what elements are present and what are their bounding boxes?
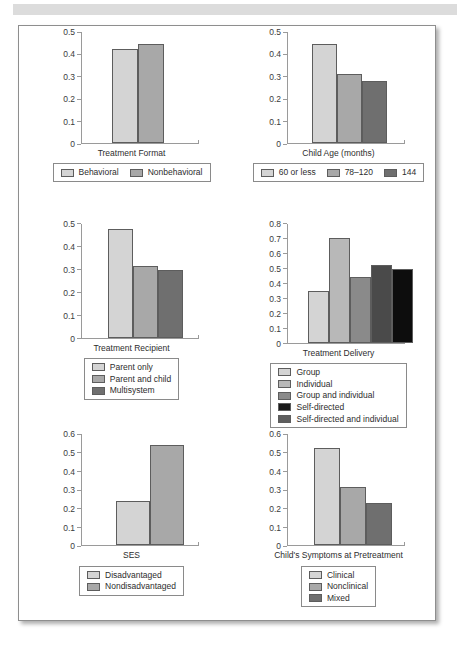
x-axis-line [287,343,405,344]
plot-area-treatment-delivery: 00.10.20.30.40.50.60.70.8 [287,224,405,344]
y-axis-tick-label: 0.2 [63,95,75,104]
legend-swatch-icon [309,571,322,579]
y-axis-tick [77,546,81,547]
plot-wrapper-childs-symptoms-at-pretreatment: 00.10.20.30.40.50.6 [257,434,405,546]
bar-child-age-months-1 [337,74,362,143]
y-axis-tick [77,269,81,270]
y-axis-tick [77,471,81,472]
y-axis-tick-label: 0.5 [63,449,75,458]
y-axis-tick-label: 0.2 [63,505,75,514]
y-axis-tick-label: 0 [70,542,75,551]
y-axis-tick-label: 0.4 [269,467,281,476]
legend-label: Mixed [327,593,350,604]
chart-panel-childs-symptoms-at-pretreatment: 00.10.20.30.40.50.6Child's Symptoms at P… [227,428,435,620]
y-axis-tick [283,253,287,254]
y-axis-tick [283,313,287,314]
y-axis-tick [283,238,287,239]
y-axis-tick-label: 0.4 [269,280,281,289]
legend-swatch-icon [278,403,291,411]
x-axis-label-treatment-delivery: Treatment Delivery [303,349,374,358]
y-axis-tick [77,527,81,528]
y-axis-tick [77,54,81,55]
y-axis-tick-label: 0.6 [269,430,281,439]
y-axis-tick-label: 0.2 [269,310,281,319]
x-axis-line [81,338,199,339]
y-axis-tick-label: 0.6 [63,430,75,439]
y-axis-tick [77,452,81,453]
bar-ses-1 [150,445,184,545]
y-axis-tick [77,315,81,316]
legend-item: Nondisadvantaged [87,581,176,592]
plot-area-ses: 00.10.20.30.40.50.6 [81,434,199,546]
legend-label: 78–120 [345,167,373,178]
legend-swatch-icon [309,594,322,602]
legend-item: Individual [278,379,398,390]
legend-label: Multisystem [110,385,155,396]
y-axis-tick-label: 0.7 [269,235,281,244]
y-axis-tick-label: 0.1 [269,325,281,334]
legend-item: Nonclinical [309,581,368,592]
legend-label: Disadvantaged [105,570,162,581]
legend-swatch-icon [309,583,322,591]
legend-label: Nondisadvantaged [105,581,176,592]
legend-label: Group and individual [296,390,374,401]
y-axis-tick [283,54,287,55]
legend-item: Group and individual [278,390,398,401]
legend-item: Parent only [92,362,171,373]
legend-swatch-icon [61,169,74,177]
bars-container [288,434,405,545]
y-axis-tick [283,452,287,453]
legend-treatment-delivery: GroupIndividualGroup and individualSelf-… [270,363,406,428]
bar-treatment-format-0 [112,49,138,143]
legend-item: Self-directed and individual [278,414,398,425]
legend-swatch-icon [92,387,105,395]
legend-label: 144 [402,167,416,178]
y-axis-tick [283,223,287,224]
bar-treatment-delivery-0 [308,291,329,343]
y-axis-tick-label: 0 [276,340,281,349]
chart-panel-treatment-delivery: 00.10.20.30.40.50.60.70.8Treatment Deliv… [227,218,435,428]
x-axis-label-childs-symptoms-at-pretreatment: Child's Symptoms at Pretreatment [274,551,403,560]
y-axis-tick [77,121,81,122]
y-axis-tick-label: 0 [70,140,75,149]
legend-item: 78–120 [327,167,373,178]
y-axis-tick [283,76,287,77]
legend-child-age-months: 60 or less78–120144 [253,163,424,182]
y-axis-tick-label: 0.1 [269,117,281,126]
y-axis-tick-label: 0.4 [63,50,75,59]
y-axis-tick-label: 0.3 [269,73,281,82]
y-axis-tick [77,508,81,509]
y-axis-tick-label: 0.1 [269,523,281,532]
bar-childs-symptoms-at-pretreatment-1 [340,487,366,545]
y-axis-tick-label: 0.4 [269,50,281,59]
legend-label: Self-directed [296,402,344,413]
legend-label: Parent and child [110,374,171,385]
y-axis-tick-label: 0 [276,542,281,551]
plot-area-treatment-format: 00.10.20.30.40.5 [81,32,199,144]
y-axis-tick-label: 0.2 [63,289,75,298]
bar-treatment-delivery-3 [371,265,392,343]
bar-treatment-recipient-2 [158,270,183,338]
y-axis-tick-label: 0 [70,335,75,344]
y-axis-tick [283,546,287,547]
y-axis-tick-label: 0.1 [63,312,75,321]
bars-container [288,224,405,343]
y-axis-tick [283,32,287,33]
y-axis-tick [283,121,287,122]
y-axis-tick-label: 0.3 [63,73,75,82]
y-axis-tick [283,328,287,329]
legend-item: Nonbehavioral [130,167,203,178]
y-axis-tick [77,144,81,145]
legend-childs-symptoms-at-pretreatment: ClinicalNonclinicalMixed [301,566,376,608]
plot-wrapper-child-age-months: 00.10.20.30.40.5 [257,32,405,144]
x-axis-label-child-age-months: Child Age (months) [302,149,374,158]
legend-label: Nonbehavioral [148,167,203,178]
y-axis-tick-label: 0.1 [63,523,75,532]
bar-treatment-delivery-2 [350,277,371,343]
bar-childs-symptoms-at-pretreatment-2 [366,503,392,545]
legend-item: Behavioral [61,167,119,178]
y-axis-tick-label: 0.4 [63,243,75,252]
chart-panel-child-age-months: 00.10.20.30.40.5Child Age (months)60 or … [227,26,435,218]
legend-label: Behavioral [79,167,119,178]
bars-container [82,224,199,338]
